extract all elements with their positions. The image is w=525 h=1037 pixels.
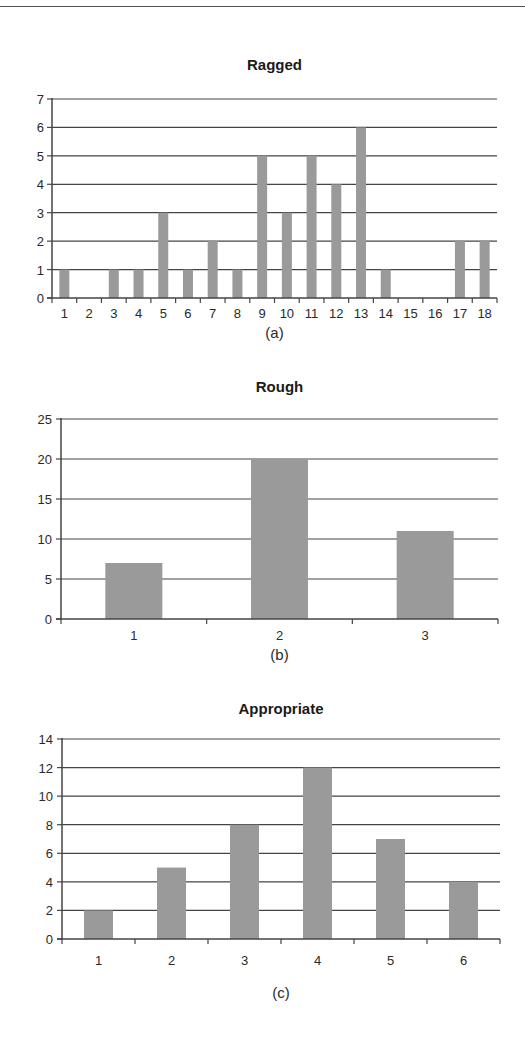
bar xyxy=(134,270,144,298)
y-tick-label: 0 xyxy=(46,932,53,947)
x-tick-label: 10 xyxy=(280,306,294,321)
bar xyxy=(251,459,308,619)
x-tick-label: 1 xyxy=(95,953,102,968)
x-tick-label: 7 xyxy=(209,306,216,321)
y-tick-label: 1 xyxy=(37,263,44,278)
bar xyxy=(303,768,332,939)
y-tick-label: 2 xyxy=(37,234,44,249)
chart-rough: Rough0510152025123(b) xyxy=(38,378,498,663)
x-tick-label: 12 xyxy=(329,306,343,321)
x-tick-label: 3 xyxy=(110,306,117,321)
bar xyxy=(105,563,162,619)
x-tick-label: 5 xyxy=(160,306,167,321)
bar xyxy=(208,241,218,298)
bar xyxy=(109,270,119,298)
y-tick-label: 3 xyxy=(37,206,44,221)
chart-appropriate: Appropriate02468101214123456(c) xyxy=(39,700,500,1001)
x-tick-label: 4 xyxy=(135,306,142,321)
x-tick-label: 14 xyxy=(379,306,393,321)
bar xyxy=(449,882,478,939)
x-tick-label: 1 xyxy=(61,306,68,321)
chart-caption: (b) xyxy=(270,646,288,663)
bar xyxy=(307,156,317,298)
bar xyxy=(158,213,168,298)
x-tick-label: 5 xyxy=(387,953,394,968)
y-tick-label: 12 xyxy=(39,761,53,776)
x-tick-label: 11 xyxy=(305,306,319,321)
y-tick-label: 5 xyxy=(37,149,44,164)
bar xyxy=(230,825,259,939)
chart-caption: (a) xyxy=(265,324,283,341)
bar xyxy=(455,241,465,298)
y-tick-label: 10 xyxy=(39,789,53,804)
chart-title: Ragged xyxy=(247,56,302,73)
x-tick-label: 6 xyxy=(460,953,467,968)
x-tick-label: 17 xyxy=(453,306,467,321)
bar xyxy=(356,127,366,298)
bar xyxy=(257,156,267,298)
bar xyxy=(232,270,242,298)
x-tick-label: 6 xyxy=(184,306,191,321)
x-tick-label: 4 xyxy=(314,953,321,968)
bar xyxy=(59,270,69,298)
bar xyxy=(331,184,341,298)
figure-canvas: Ragged0123456712345678910111213141516171… xyxy=(0,0,525,1037)
chart-title: Rough xyxy=(256,378,303,395)
x-tick-label: 8 xyxy=(234,306,241,321)
y-tick-label: 2 xyxy=(46,903,53,918)
chart-title: Appropriate xyxy=(238,700,323,717)
x-tick-label: 2 xyxy=(168,953,175,968)
x-tick-label: 16 xyxy=(428,306,442,321)
bar xyxy=(183,270,193,298)
x-tick-label: 15 xyxy=(403,306,417,321)
bar xyxy=(84,910,113,939)
y-tick-label: 6 xyxy=(37,120,44,135)
y-tick-label: 15 xyxy=(38,492,52,507)
x-tick-label: 2 xyxy=(276,628,283,643)
bar xyxy=(381,270,391,298)
x-tick-label: 3 xyxy=(241,953,248,968)
x-tick-label: 2 xyxy=(85,306,92,321)
x-tick-label: 1 xyxy=(130,628,137,643)
y-tick-label: 25 xyxy=(38,412,52,427)
bar xyxy=(397,531,454,619)
x-tick-label: 3 xyxy=(422,628,429,643)
y-tick-label: 8 xyxy=(46,818,53,833)
bar xyxy=(480,241,490,298)
y-tick-label: 4 xyxy=(46,875,53,890)
bar xyxy=(282,213,292,298)
y-tick-label: 4 xyxy=(37,177,44,192)
y-tick-label: 14 xyxy=(39,732,53,747)
y-tick-label: 0 xyxy=(37,291,44,306)
bar xyxy=(376,839,405,939)
y-tick-label: 0 xyxy=(45,612,52,627)
y-tick-label: 7 xyxy=(37,92,44,107)
y-tick-label: 5 xyxy=(45,572,52,587)
x-tick-label: 9 xyxy=(259,306,266,321)
y-tick-label: 10 xyxy=(38,532,52,547)
chart-caption: (c) xyxy=(272,984,290,1001)
y-tick-label: 6 xyxy=(46,846,53,861)
x-tick-label: 13 xyxy=(354,306,368,321)
x-tick-label: 18 xyxy=(477,306,491,321)
chart-ragged: Ragged0123456712345678910111213141516171… xyxy=(37,56,497,341)
y-tick-label: 20 xyxy=(38,452,52,467)
bar xyxy=(157,868,186,939)
